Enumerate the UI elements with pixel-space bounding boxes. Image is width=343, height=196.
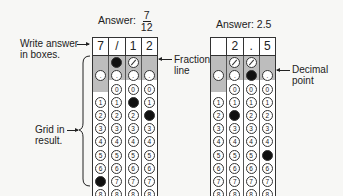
grid-in-label: Grid in result. [35,124,64,146]
digit-bubble-0[interactable]: 0 [229,84,240,95]
digit-bubble-4[interactable]: 4 [229,136,240,147]
decimal-point-arrow-icon [277,70,290,71]
answer-box[interactable]: . [243,38,259,55]
digit-bubble-0[interactable]: 0 [262,84,273,95]
digit-bubble-7[interactable]: 7 [95,176,106,187]
digit-bubble-8[interactable]: 8 [229,189,240,196]
left-answer-grid: 7 / 1 2 .0123456789.0123456789.012345678… [92,37,158,196]
digit-bubble-6[interactable]: 6 [111,163,122,174]
digit-bubble-1[interactable]: 1 [144,97,155,108]
digit-bubble-8[interactable]: 8 [95,189,106,196]
digit-bubble-8[interactable]: 8 [213,189,224,196]
digit-bubble-2[interactable]: 2 [229,110,240,121]
digit-bubble-5[interactable]: 5 [111,150,122,161]
digit-bubble-1[interactable]: 1 [246,97,257,108]
digit-bubble-5[interactable]: 5 [262,150,273,161]
fraction-denominator: 12 [141,22,153,33]
digit-bubble-4[interactable]: 4 [246,136,257,147]
decimal-point-label: Decimal point [292,64,328,86]
digit-bubble-8[interactable]: 8 [144,189,155,196]
answer-fraction: 7 12 [141,10,153,33]
digit-bubble-7[interactable]: 7 [128,176,139,187]
digit-bubble-4[interactable]: 4 [111,136,122,147]
digit-bubble-4[interactable]: 4 [128,136,139,147]
bubble-column-2: .0123456789 [226,56,242,196]
digit-bubble-5[interactable]: 5 [144,150,155,161]
digit-bubble-6[interactable]: 6 [229,163,240,174]
digit-bubble-5[interactable]: 5 [229,150,240,161]
digit-bubble-5[interactable]: 5 [95,150,106,161]
digit-bubble-3[interactable]: 3 [128,123,139,134]
digit-bubble-1[interactable]: 1 [95,97,106,108]
digit-bubble-3[interactable]: 3 [144,123,155,134]
digit-bubble-5[interactable]: 5 [128,150,139,161]
digit-bubble-6[interactable]: 6 [213,163,224,174]
grid-in-line2: result. [35,135,64,146]
answer-boxes: 7 / 1 2 [93,38,157,56]
digit-bubble-4[interactable]: 4 [95,136,106,147]
write-answer-line2: in boxes. [20,49,78,60]
bubble-column-3: .0123456789 [125,56,141,196]
digit-bubble-2[interactable]: 2 [262,110,273,121]
digit-bubble-0[interactable]: 0 [111,84,122,95]
digit-bubble-1[interactable]: 1 [128,97,139,108]
digit-bubble-0[interactable]: 0 [246,84,257,95]
digit-bubble-0[interactable]: 0 [144,84,155,95]
answer-box[interactable]: 5 [259,38,275,55]
digit-bubble-4[interactable]: 4 [213,136,224,147]
decimal-point-line1: Decimal [292,64,328,75]
digit-bubble-2[interactable]: 2 [111,110,122,121]
digit-bubble-2[interactable]: 2 [246,110,257,121]
digit-bubble-6[interactable]: 6 [144,163,155,174]
decimal-point-bubble[interactable]: . [128,70,139,81]
digit-bubble-3[interactable]: 3 [246,123,257,134]
digit-bubble-7[interactable]: 7 [229,176,240,187]
digit-bubble-7[interactable]: 7 [246,176,257,187]
brace-icon [78,55,92,187]
digit-bubble-3[interactable]: 3 [229,123,240,134]
digit-bubble-5[interactable]: 5 [246,150,257,161]
digit-bubble-6[interactable]: 6 [246,163,257,174]
digit-bubble-7[interactable]: 7 [144,176,155,187]
digit-bubble-6[interactable]: 6 [95,163,106,174]
digit-bubble-4[interactable]: 4 [144,136,155,147]
answer-box[interactable]: / [108,38,124,55]
answer-label: Answer: [98,14,136,26]
digit-bubble-6[interactable]: 6 [128,163,139,174]
digit-bubble-3[interactable]: 3 [95,123,106,134]
answer-box[interactable]: 1 [125,38,141,55]
digit-bubble-7[interactable]: 7 [111,176,122,187]
digit-bubble-2[interactable]: 2 [128,110,139,121]
bubble-column-4: .0123456789 [141,56,157,196]
digit-bubble-4[interactable]: 4 [262,136,273,147]
digit-bubble-1[interactable]: 1 [262,97,273,108]
digit-bubble-2[interactable]: 2 [95,110,106,121]
digit-bubble-3[interactable]: 3 [262,123,273,134]
digit-bubble-2[interactable]: 2 [144,110,155,121]
left-answer-title: Answer: 7 12 [98,10,153,33]
answer-box[interactable]: 2 [226,38,242,55]
digit-bubble-1[interactable]: 1 [111,97,122,108]
digit-bubble-7[interactable]: 7 [262,176,273,187]
decimal-point-bubble[interactable]: . [246,70,257,81]
bubble-column-1: .0123456789 [211,56,226,196]
fraction-slash-bubble[interactable] [128,57,139,68]
digit-bubble-3[interactable]: 3 [111,123,122,134]
digit-bubble-8[interactable]: 8 [262,189,273,196]
digit-bubble-6[interactable]: 6 [262,163,273,174]
answer-box[interactable]: 7 [93,38,108,55]
answer-box[interactable] [211,38,226,55]
digit-bubble-1[interactable]: 1 [229,97,240,108]
digit-bubble-8[interactable]: 8 [111,189,122,196]
digit-bubble-2[interactable]: 2 [213,110,224,121]
digit-bubble-5[interactable]: 5 [213,150,224,161]
digit-bubble-1[interactable]: 1 [213,97,224,108]
digit-bubble-8[interactable]: 8 [246,189,257,196]
digit-bubble-0[interactable]: 0 [128,84,139,95]
digit-bubble-8[interactable]: 8 [128,189,139,196]
bubble-column-2: .0123456789 [108,56,124,196]
digit-bubble-3[interactable]: 3 [213,123,224,134]
answer-box[interactable]: 2 [141,38,157,55]
digit-bubble-7[interactable]: 7 [213,176,224,187]
fraction-slash-bubble[interactable] [246,57,257,68]
